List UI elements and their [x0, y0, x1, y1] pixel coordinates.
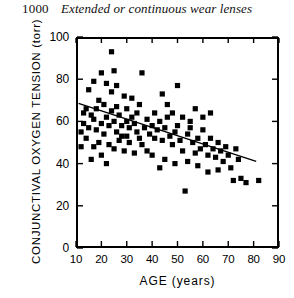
x-tick-label: 20	[89, 253, 113, 265]
y-axis-label: CONJUNCTIVAL OXYGEN TENSION (torr)	[30, 24, 42, 264]
x-tick-label: 40	[140, 253, 164, 265]
x-tick-label: 90	[267, 253, 291, 265]
x-tick-label: 50	[166, 253, 190, 265]
running-head-title: Extended or continuous wear lenses	[61, 1, 252, 17]
running-head: 1000 Extended or continuous wear lenses	[0, 1, 294, 19]
y-tick-label: 40	[43, 157, 69, 171]
x-axis-label: AGE (years)	[76, 274, 279, 288]
figure-page: 1000 Extended or continuous wear lenses …	[0, 0, 294, 298]
x-tick-label: 60	[191, 253, 215, 265]
y-tick-label: 100	[43, 30, 69, 44]
y-tick-label: 60	[43, 114, 69, 128]
y-tick-label: 20	[43, 199, 69, 213]
x-tick-label: 70	[216, 253, 240, 265]
y-tick-label: 0	[43, 241, 69, 255]
plot-frame	[76, 37, 279, 248]
x-tick-label: 80	[242, 253, 266, 265]
page-folio: 1000	[22, 1, 49, 17]
x-tick-label: 30	[115, 253, 139, 265]
y-tick-label: 80	[43, 72, 69, 86]
